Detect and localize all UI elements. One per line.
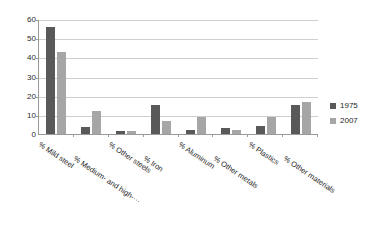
- plot-area: [38, 20, 318, 135]
- y-axis-tick-label: 40: [4, 54, 36, 62]
- bar: [162, 121, 171, 134]
- bar: [221, 128, 230, 134]
- bar: [186, 130, 195, 134]
- bar: [81, 127, 90, 134]
- y-axis-tick-label: 0: [4, 131, 36, 139]
- y-axis-tick-label: 30: [4, 74, 36, 82]
- y-axis-tick-label: 10: [4, 112, 36, 120]
- y-axis-tick-label: 50: [4, 35, 36, 43]
- bar-chart: 60 50 40 30 20 10 0 % Mild steel% Medium…: [0, 0, 380, 229]
- bar-group: [213, 20, 248, 134]
- x-axis-category-label: % Plastics: [247, 140, 281, 167]
- bar: [256, 126, 265, 134]
- y-axis-tick-label: 60: [4, 16, 36, 24]
- legend-item: 1975: [330, 102, 378, 110]
- x-axis-category-label: % Other metals: [212, 154, 260, 190]
- bar: [116, 131, 125, 134]
- legend-item-label: 2007: [340, 117, 358, 125]
- bar-group: [144, 20, 179, 134]
- bar-groups: [39, 20, 318, 134]
- bar: [197, 117, 206, 134]
- legend-item: 2007: [330, 117, 378, 125]
- bar: [267, 117, 276, 134]
- y-axis-tick-label: 20: [4, 93, 36, 101]
- bar: [92, 111, 101, 134]
- bar-group: [248, 20, 283, 134]
- bar-group: [283, 20, 318, 134]
- bar: [232, 130, 241, 134]
- bar: [302, 102, 311, 134]
- legend: 1975 2007: [330, 102, 378, 132]
- y-axis: 60 50 40 30 20 10 0: [0, 20, 36, 135]
- bar: [151, 105, 160, 134]
- bar-group: [74, 20, 109, 134]
- x-axis-labels: % Mild steel% Medium- and high-···% Othe…: [38, 136, 318, 226]
- bar-group: [39, 20, 74, 134]
- bar-group: [109, 20, 144, 134]
- x-axis-category-label: % Aluminum: [177, 140, 217, 171]
- legend-swatch-icon: [330, 103, 336, 109]
- bar-group: [179, 20, 214, 134]
- bar: [57, 52, 66, 134]
- bar: [127, 131, 136, 134]
- legend-item-label: 1975: [340, 102, 358, 110]
- x-axis-category-label: % Other materials: [282, 154, 337, 195]
- x-axis-category-label: % Mild steel: [37, 140, 76, 170]
- bar: [291, 105, 300, 134]
- bar: [46, 27, 55, 134]
- legend-swatch-icon: [330, 118, 336, 124]
